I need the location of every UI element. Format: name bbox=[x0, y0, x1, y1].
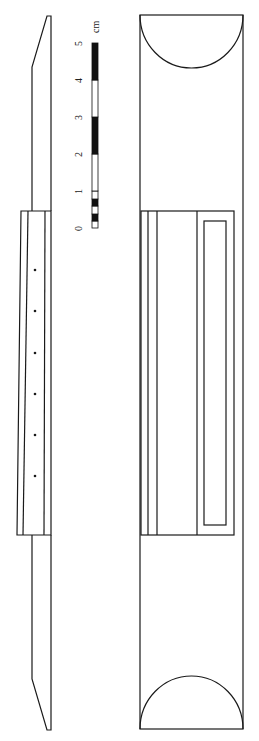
scale-segment bbox=[92, 117, 98, 154]
hole bbox=[34, 352, 37, 355]
hole bbox=[34, 475, 37, 478]
scale-bar: 0 1 2 3 4 5 cm bbox=[73, 21, 101, 231]
side-sleeve-inner-left bbox=[23, 211, 28, 535]
scale-segment bbox=[92, 221, 98, 228]
scale-segment bbox=[92, 43, 98, 80]
scale-label-0: 0 bbox=[73, 226, 84, 231]
side-view bbox=[17, 16, 51, 730]
scale-segment bbox=[92, 191, 98, 199]
hole bbox=[34, 310, 37, 313]
front-view bbox=[140, 15, 243, 729]
side-sleeve-outline bbox=[17, 211, 51, 535]
front-outline bbox=[140, 15, 243, 729]
side-sleeve-inner-right bbox=[44, 211, 45, 535]
hole bbox=[34, 393, 37, 396]
scale-segment bbox=[92, 199, 98, 206]
front-slot bbox=[204, 221, 226, 525]
front-panel bbox=[141, 211, 234, 535]
scale-label-3: 3 bbox=[73, 115, 84, 120]
bottom-semicircle bbox=[140, 676, 243, 729]
scale-segment bbox=[92, 214, 98, 221]
side-shaft-upper bbox=[32, 16, 51, 211]
side-shaft-lower bbox=[32, 535, 51, 730]
scale-segment bbox=[92, 80, 98, 117]
scale-label-1: 1 bbox=[73, 189, 84, 194]
scale-label-5: 5 bbox=[73, 41, 84, 46]
hole bbox=[34, 434, 37, 437]
scale-label-4: 4 bbox=[73, 78, 84, 83]
scale-label-2: 2 bbox=[73, 152, 84, 157]
scale-unit-label: cm bbox=[90, 21, 101, 33]
hole bbox=[34, 269, 37, 272]
scale-segment bbox=[92, 206, 98, 214]
technical-drawing: 0 1 2 3 4 5 cm bbox=[0, 0, 259, 741]
top-semicircle bbox=[140, 15, 243, 68]
scale-segment bbox=[92, 154, 98, 191]
